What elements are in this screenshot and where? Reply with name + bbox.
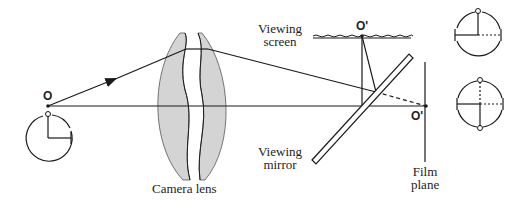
viewing-mirror-label: Viewing mirror	[258, 145, 302, 171]
camera-lens-label: Camera lens	[152, 182, 217, 195]
incident-ray	[48, 79, 115, 106]
screen-image-point-label: O'	[356, 20, 368, 32]
film-image-point-label: O'	[411, 110, 423, 122]
screen-image-orientation-icon	[455, 9, 501, 56]
object-point-label: O	[43, 90, 52, 102]
object-orientation-icon	[26, 112, 72, 162]
virtual-ray	[376, 92, 426, 106]
reflected-ray	[362, 36, 376, 92]
film-plane-label: Film plane	[411, 165, 439, 191]
viewing-screen-label: Viewing screen	[258, 22, 302, 48]
film-image-orientation-icon	[457, 78, 503, 131]
reflex-camera-diagram: O O' O' Camera lens Viewing screen Viewi…	[0, 0, 507, 200]
